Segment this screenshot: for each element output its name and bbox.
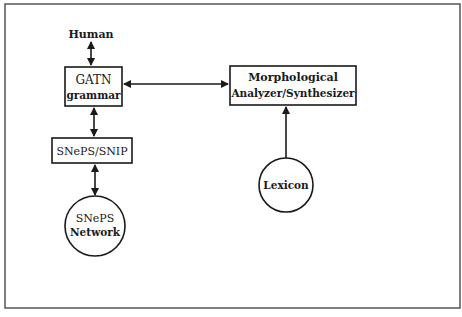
morph-line2: Analyzer/Synthesizer	[230, 87, 355, 99]
lexicon-node: Lexicon	[259, 158, 313, 212]
gatn-line1: GATN	[75, 73, 111, 87]
network-line1: SNePS	[76, 212, 115, 225]
snepps-snip-node: SNePS/SNIP	[52, 138, 132, 163]
architecture-diagram: Human GATN grammar Morphological Analyze…	[0, 0, 462, 317]
human-label: Human	[68, 28, 113, 41]
morph-line1: Morphological	[248, 71, 338, 84]
snip-label: SNePS/SNIP	[56, 145, 128, 158]
network-line2: Network	[70, 226, 121, 238]
morphological-analyzer-node: Morphological Analyzer/Synthesizer	[230, 66, 356, 105]
gatn-grammar-node: GATN grammar	[65, 67, 122, 106]
snepps-network-node: SNePS Network	[65, 196, 125, 256]
gatn-line2: grammar	[66, 89, 121, 101]
lexicon-label: Lexicon	[263, 179, 309, 191]
